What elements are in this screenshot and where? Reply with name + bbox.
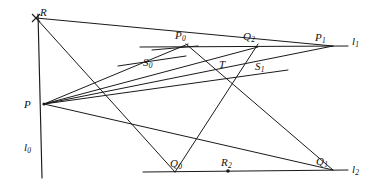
point-label-Q0-base: Q bbox=[170, 157, 178, 169]
line-label-l1: l1 bbox=[352, 36, 359, 47]
reference-line-l1 bbox=[140, 46, 348, 47]
segment-Q0-to-Q2 bbox=[175, 44, 258, 172]
point-label-R2-subscript: 2 bbox=[228, 161, 232, 170]
line-label-l0-subscript: 0 bbox=[27, 146, 31, 155]
geometry-figure: RPP0Q2P1S0TS1Q0R2Q1 l0l1l2 bbox=[0, 0, 378, 190]
reference-line-l0 bbox=[38, 14, 42, 178]
point-label-Q0: Q0 bbox=[170, 158, 182, 169]
point-label-R2: R2 bbox=[221, 157, 231, 168]
point-label-Q1-base: Q bbox=[316, 155, 324, 167]
point-label-Q0-subscript: 0 bbox=[178, 162, 182, 171]
line-label-l2-subscript: 2 bbox=[355, 168, 359, 177]
point-label-S1: S1 bbox=[255, 61, 264, 72]
point-label-P0-base: P bbox=[175, 29, 182, 41]
point-label-P1: P1 bbox=[315, 32, 325, 43]
point-label-R-base: R bbox=[40, 6, 47, 18]
point-label-P: P bbox=[24, 99, 31, 110]
point-label-S1-base: S bbox=[255, 60, 261, 72]
point-label-R2-base: R bbox=[221, 156, 228, 168]
point-label-P0-subscript: 0 bbox=[182, 34, 186, 43]
segment-P-to-P0 bbox=[44, 44, 188, 104]
point-label-R: R bbox=[40, 7, 47, 18]
point-label-P0: P0 bbox=[175, 30, 185, 41]
line-label-l1-subscript: 1 bbox=[355, 40, 359, 49]
point-label-S0-subscript: 0 bbox=[149, 61, 153, 70]
point-label-T-base: T bbox=[219, 58, 225, 70]
point-marker-P bbox=[42, 102, 45, 105]
point-label-P1-base: P bbox=[315, 31, 322, 43]
line-label-l2: l2 bbox=[352, 164, 359, 175]
point-label-S0: S0 bbox=[143, 57, 152, 68]
point-label-S0-base: S bbox=[143, 56, 149, 68]
point-label-T: T bbox=[219, 59, 225, 70]
line-label-l0: l0 bbox=[24, 142, 31, 153]
point-markers-group bbox=[32, 14, 230, 173]
segment-P-to-Q2 bbox=[44, 47, 258, 104]
point-label-Q1: Q1 bbox=[316, 156, 328, 167]
point-label-S1-subscript: 1 bbox=[261, 65, 265, 74]
point-label-Q2-subscript: 2 bbox=[251, 35, 255, 44]
point-label-Q2-base: Q bbox=[243, 30, 251, 42]
point-label-Q2: Q2 bbox=[243, 31, 255, 42]
point-label-P-base: P bbox=[24, 98, 31, 110]
point-label-P1-subscript: 1 bbox=[322, 36, 326, 45]
segment-P-to-S1-ext bbox=[44, 70, 288, 104]
segment-P-to-Q1 bbox=[44, 104, 333, 170]
point-label-Q1-subscript: 1 bbox=[324, 160, 328, 169]
